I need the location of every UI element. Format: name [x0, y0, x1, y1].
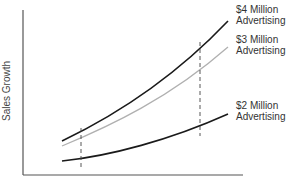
series-3m-line [62, 47, 228, 146]
series-4m-line [62, 21, 228, 141]
legend-3m-line2: Advertising [236, 45, 285, 56]
chart-canvas [0, 0, 289, 184]
legend-2m-line2: Advertising [236, 111, 285, 122]
series-2m-line [62, 114, 228, 161]
legend-2m-line1: $2 Million [236, 100, 285, 111]
legend-3m: $3 Million Advertising [236, 34, 285, 56]
legend-4m: $4 Million Advertising [236, 4, 285, 26]
legend-3m-line1: $3 Million [236, 34, 285, 45]
legend-4m-line2: Advertising [236, 15, 285, 26]
legend-4m-line1: $4 Million [236, 4, 285, 15]
legend-2m: $2 Million Advertising [236, 100, 285, 122]
y-axis-label: Sales Growth [1, 46, 13, 136]
